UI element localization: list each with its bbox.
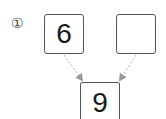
part-box-right-blank[interactable] — [116, 14, 156, 54]
part-box-left: 6 — [44, 14, 84, 54]
arrow-left-to-whole — [64, 55, 82, 80]
whole-value: 9 — [92, 87, 108, 119]
arrow-right-to-whole — [120, 55, 136, 80]
whole-box: 9 — [80, 82, 120, 119]
part-left-value: 6 — [56, 18, 72, 50]
